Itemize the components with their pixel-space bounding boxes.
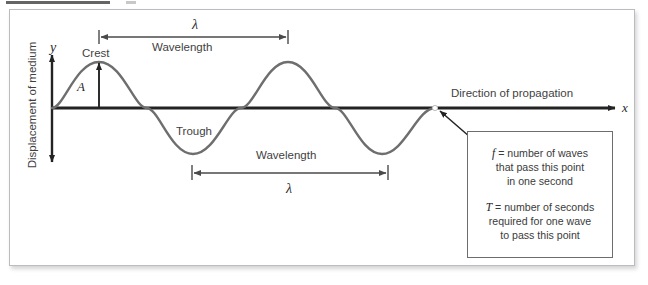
callout-leader-line: [440, 111, 470, 137]
frequency-line-3: in one second: [507, 175, 573, 187]
period-definition: T = number of seconds required for one w…: [481, 200, 600, 243]
frequency-symbol: f: [492, 147, 495, 159]
period-symbol: T: [486, 201, 492, 213]
frequency-line-1: = number of waves: [498, 147, 588, 159]
period-line-2: required for one wave: [489, 215, 591, 227]
period-line-1: = number of seconds: [495, 201, 594, 213]
period-line-3: to pass this point: [500, 229, 580, 241]
x-axis-letter: x: [622, 101, 628, 114]
amplitude-label: A: [77, 80, 85, 93]
trough-label: Trough: [176, 126, 212, 138]
frequency-line-2: that pass this point: [496, 161, 584, 173]
wavelength-top-label: Wavelength: [152, 42, 212, 54]
wave-axis-crossing-point: [432, 105, 437, 110]
wavelength-bottom-label: Wavelength: [256, 150, 316, 162]
lambda-top-label: λ: [192, 18, 198, 32]
crest-label: Crest: [82, 48, 109, 60]
y-axis-letter: y: [50, 41, 56, 55]
direction-of-propagation-label: Direction of propagation: [451, 88, 573, 100]
frequency-definition: f = number of waves that pass this point…: [487, 146, 593, 189]
lambda-bottom-label: λ: [286, 182, 292, 196]
definitions-callout-box: f = number of waves that pass this point…: [467, 131, 613, 258]
y-axis-label: Displacement of medium: [26, 30, 38, 180]
